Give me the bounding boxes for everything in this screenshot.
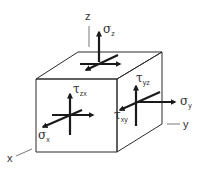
- sigma-y-label: σy: [180, 94, 192, 110]
- sigma-x-label: σx: [38, 128, 50, 143]
- axis-x-label: x: [7, 152, 13, 164]
- top-shear-arrow-diagonal: [86, 55, 118, 70]
- axis-y: y: [167, 118, 189, 130]
- axis-x: x: [7, 149, 32, 164]
- top-face-stresses: σz: [80, 22, 120, 70]
- axis-y-label: y: [183, 118, 189, 130]
- sigma-x-arrow: [43, 110, 82, 127]
- axis-z: z: [85, 10, 91, 47]
- sigma-z-label: σz: [103, 22, 115, 37]
- tau-yz-label: τyz: [136, 71, 150, 87]
- tau-zx-label: τzx: [73, 82, 87, 97]
- stress-element-diagram: z x y σz τzx σx τyz: [0, 0, 200, 174]
- axis-z-label: z: [85, 10, 91, 22]
- front-face-stresses: τzx σx: [38, 82, 93, 143]
- right-face-stresses: τyz σy τxy: [114, 71, 192, 126]
